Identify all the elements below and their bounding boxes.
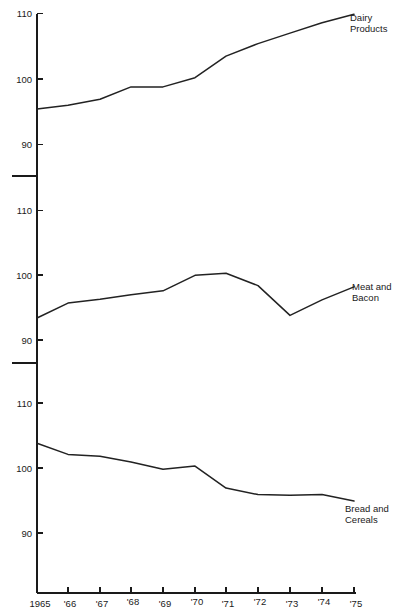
series-label-dairy-line2: Products [350, 23, 388, 34]
chart-container: 110 100 90 Dairy Products 110 100 90 Mea… [0, 0, 396, 615]
ytick-label-110-panel2: 110 [17, 205, 32, 216]
series-line-meat-and-bacon [37, 273, 354, 318]
ytick-label-100-panel3: 100 [16, 463, 32, 474]
series-line-dairy-products [37, 14, 354, 109]
series-label-bread-line2: Cereals [345, 514, 378, 525]
ytick-label-100-panel1: 100 [16, 74, 32, 85]
ytick-label-110-panel3: 110 [17, 398, 32, 409]
ytick-label-90-panel3: 90 [21, 528, 32, 539]
ytick-label-100-panel2: 100 [16, 270, 32, 281]
series-label-meat-line1: Meat and [352, 281, 392, 292]
panel-dairy-products: 110 100 90 Dairy Products [12, 8, 388, 176]
ytick-label-110-panel1: 110 [17, 8, 32, 19]
series-line-bread-and-cereals [37, 443, 354, 501]
xtick-label-1974: '74 [318, 596, 330, 607]
x-axis-ticks: 1965 '66 '67 '68 '69 '70 '71 '72 '73 '74… [29, 587, 362, 609]
panel-meat-and-bacon: 110 100 90 Meat and Bacon [12, 205, 392, 363]
panel-bread-and-cereals: 110 100 90 Bread and Cereals [16, 398, 389, 539]
series-label-dairy-line1: Dairy [350, 12, 372, 23]
series-label-bread-line1: Bread and [345, 503, 389, 514]
xtick-label-1970: '70 [191, 596, 203, 607]
line-chart-svg: 110 100 90 Dairy Products 110 100 90 Mea… [0, 0, 396, 615]
ytick-label-90-panel1: 90 [21, 139, 32, 150]
xtick-label-1975: '75 [350, 598, 362, 609]
xtick-label-1972: '72 [254, 596, 266, 607]
xtick-label-1969: '69 [159, 598, 171, 609]
xtick-label-1968: '68 [127, 596, 139, 607]
series-label-meat-line2: Bacon [352, 292, 379, 303]
ytick-label-90-panel2: 90 [21, 335, 32, 346]
xtick-label-1965: 1965 [29, 598, 50, 609]
xtick-label-1966: '66 [64, 598, 76, 609]
xtick-label-1967: '67 [96, 598, 108, 609]
xtick-label-1973: '73 [286, 598, 298, 609]
xtick-label-1971: '71 [222, 598, 234, 609]
